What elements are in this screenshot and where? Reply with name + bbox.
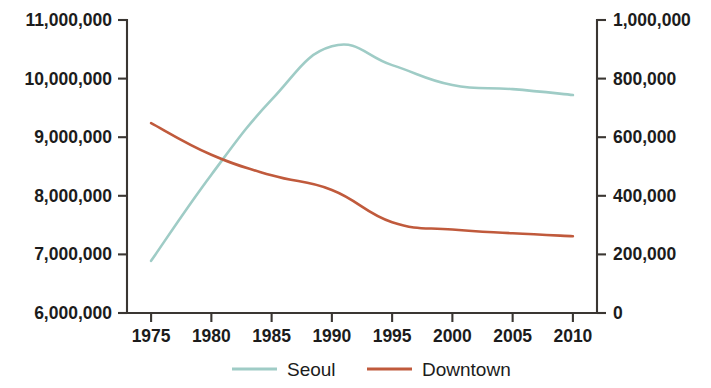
x-tick-label: 1980	[192, 326, 231, 346]
right-tick-label: 400,000	[613, 186, 677, 206]
left-tick-label: 10,000,000	[24, 69, 112, 89]
left-axis-ticks	[118, 20, 127, 313]
left-tick-label: 7,000,000	[34, 244, 112, 264]
x-tick-label: 2010	[553, 326, 592, 346]
x-tick-label: 1990	[312, 326, 351, 346]
line-chart: 6,000,0007,000,0008,000,0009,000,00010,0…	[0, 0, 711, 388]
left-tick-label: 8,000,000	[34, 186, 112, 206]
left-tick-label: 6,000,000	[34, 303, 112, 323]
legend-label-seoul: Seoul	[287, 359, 336, 380]
right-tick-label: 600,000	[613, 127, 677, 147]
right-tick-label: 1,000,000	[613, 10, 691, 30]
series-line-seoul	[151, 45, 573, 261]
x-tick-label: 2005	[493, 326, 532, 346]
x-axis-ticks	[151, 313, 573, 322]
legend-label-downtown: Downtown	[422, 359, 511, 380]
x-tick-label: 2000	[433, 326, 472, 346]
x-tick-label: 1995	[373, 326, 412, 346]
chart-canvas: 6,000,0007,000,0008,000,0009,000,00010,0…	[0, 0, 711, 388]
right-axis-ticks	[597, 20, 606, 313]
right-tick-label: 200,000	[613, 244, 677, 264]
right-tick-label: 800,000	[613, 69, 677, 89]
left-tick-label: 9,000,000	[34, 127, 112, 147]
chart-legend: Seoul Downtown	[232, 359, 511, 380]
right-tick-label: 0	[613, 303, 623, 323]
left-axis-tick-labels: 6,000,0007,000,0008,000,0009,000,00010,0…	[24, 10, 112, 323]
x-tick-label: 1975	[132, 326, 171, 346]
series-line-downtown	[151, 123, 573, 236]
x-tick-label: 1985	[252, 326, 291, 346]
x-axis-tick-labels: 19751980198519901995200020052010	[132, 326, 593, 346]
right-axis-tick-labels: 0200,000400,000600,000800,0001,000,000	[613, 10, 691, 323]
left-tick-label: 11,000,000	[25, 10, 112, 30]
